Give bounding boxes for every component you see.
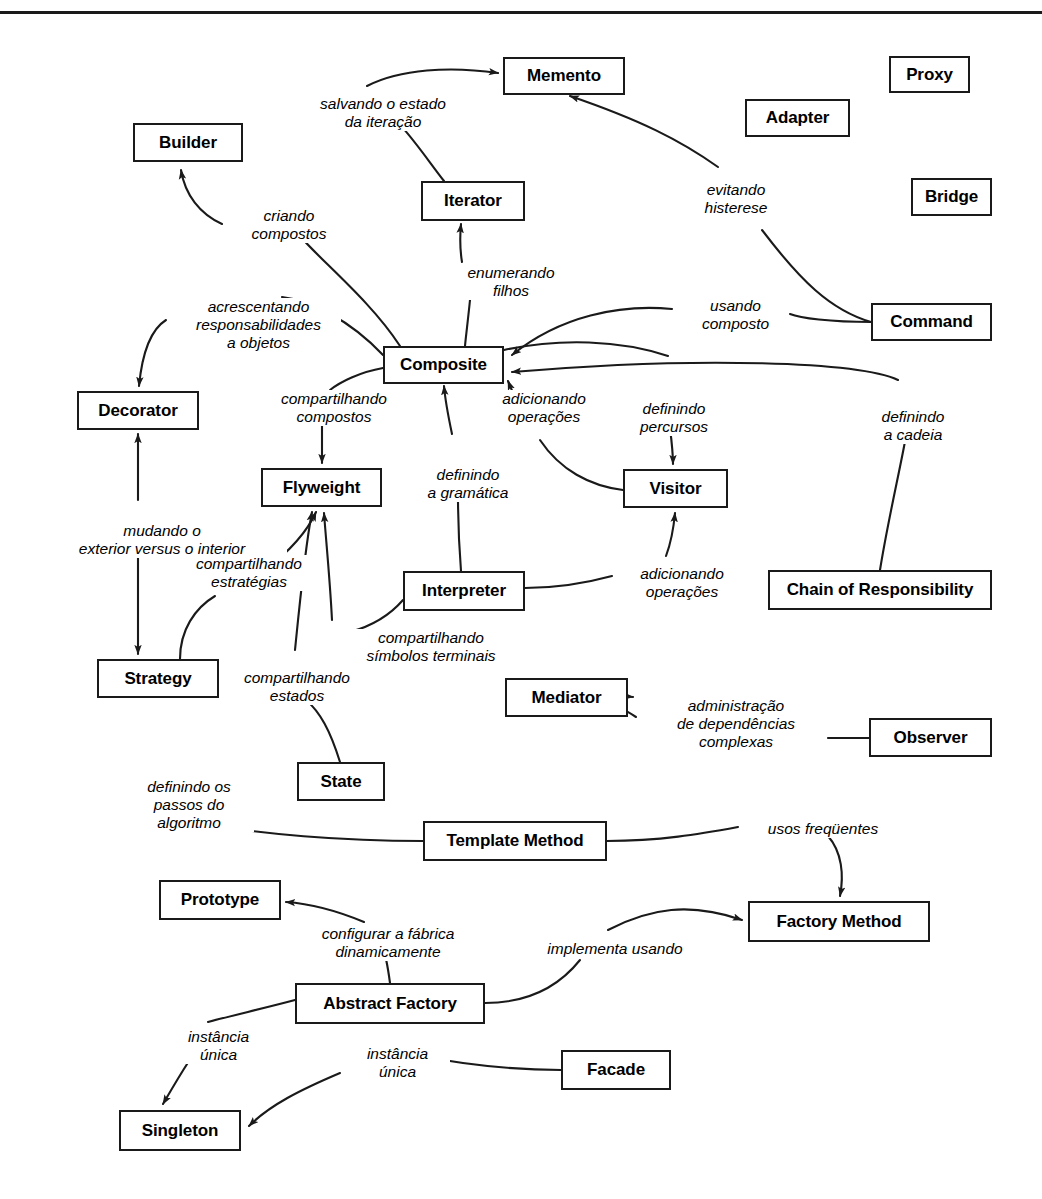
edge-interpreter-composite [444,386,452,434]
pattern-node-label: Bridge [925,187,978,207]
edge-label-line: a objetos [176,334,341,352]
edge-label-line: compartilhando [174,555,324,573]
edge-label-definindopassos: definindo ospassos doalgoritmo [124,778,254,832]
pattern-node-label: Builder [159,133,217,153]
edge-label-line: histerese [686,199,786,217]
edge-label-line: definindo [408,466,528,484]
edge-label-line: operações [483,408,605,426]
pattern-node-state[interactable]: State [297,762,385,801]
edge-composite-decorator [139,320,166,386]
pattern-node-decorator[interactable]: Decorator [77,391,199,430]
pattern-node-label: Strategy [124,669,191,689]
edge-label-line: única [166,1046,271,1064]
pattern-node-mediator[interactable]: Mediator [505,678,628,717]
pattern-node-command[interactable]: Command [871,303,992,341]
edge-label-line: dinamicamente [293,943,483,961]
pattern-node-visitor[interactable]: Visitor [623,469,728,508]
pattern-node-composite[interactable]: Composite [383,346,504,384]
pattern-node-label: Iterator [444,191,502,211]
edge-label-line: de dependências [646,715,826,733]
edge-label-line: compostos [259,408,409,426]
edge-label-line: definindo [620,400,728,418]
edge-label-instancia2: instânciaúnica [345,1045,450,1081]
pattern-node-label: Observer [894,728,968,748]
edge-label-line: definindo os [124,778,254,796]
pattern-node-builder[interactable]: Builder [133,123,243,162]
pattern-node-label: Template Method [446,831,583,851]
edge-label-line: filhos [452,282,570,300]
edge-iterator-memento-head [367,69,498,86]
edge-abstract-singleton [163,1061,189,1104]
edge-composite-builder [181,170,222,224]
edge-label-administracao: administraçãode dependênciascomplexas [646,697,826,751]
pattern-node-bridge[interactable]: Bridge [911,178,992,216]
edge-label-line: salvando o estado [297,95,469,113]
edge-label-line: compartilhando [259,390,409,408]
edge-label-line: definindo [863,408,963,426]
edge-label-configurar: configurar a fábricadinamicamente [293,925,483,961]
edge-label-line: evitando [686,181,786,199]
edge-abstract-factory [608,909,742,930]
edge-interpreter-flyweight-tail [350,600,403,632]
edge-label-line: adicionando [621,565,743,583]
pattern-node-label: Factory Method [776,912,901,932]
edge-interpreter-flyweight [324,513,332,620]
pattern-node-flyweight[interactable]: Flyweight [261,468,382,507]
pattern-node-observer[interactable]: Observer [869,718,992,757]
edge-abstract-factory-tail [485,960,580,1003]
pattern-node-label: State [320,772,361,792]
edge-label-acrescentando: acrescentandoresponsabilidadesa objetos [176,298,341,352]
pattern-node-prototype[interactable]: Prototype [159,880,281,920]
edge-label-line: criando [234,207,344,225]
edge-chain-composite-tail [880,436,906,570]
pattern-node-label: Adapter [766,108,830,128]
pattern-node-label: Memento [527,66,601,86]
pattern-node-label: Singleton [142,1121,219,1141]
edge-label-line: algoritmo [124,814,254,832]
pattern-node-strategy[interactable]: Strategy [97,659,219,698]
edge-label-compcompostos: compartilhandocompostos [259,390,409,426]
pattern-node-label: Mediator [531,688,601,708]
pattern-node-singleton[interactable]: Singleton [119,1110,241,1151]
edge-label-compsimb: compartilhandosímbolos terminais [336,629,526,665]
edge-state-flyweight-tail [306,700,340,762]
edge-label-line: operações [621,583,743,601]
pattern-node-memento[interactable]: Memento [503,57,625,95]
edge-composite-visitor-tail [504,342,668,356]
edge-label-line: compostos [234,225,344,243]
edge-label-line: símbolos terminais [336,647,526,665]
pattern-node-label: Flyweight [283,478,361,498]
edge-abstract-prototype [286,902,364,922]
edge-interpreter-composite-tail [458,496,461,571]
pattern-node-label: Abstract Factory [323,994,457,1014]
edge-label-line: implementa usando [530,940,700,958]
edge-chain-composite [512,363,898,380]
edge-label-line: percursos [620,418,728,436]
pattern-node-abstract[interactable]: Abstract Factory [295,983,485,1024]
pattern-node-adapter[interactable]: Adapter [745,99,850,137]
pattern-node-facade[interactable]: Facade [561,1050,671,1090]
edge-label-line: única [345,1063,450,1081]
edge-label-compestados: compartilhandoestados [222,669,372,705]
edge-label-line: passos do [124,796,254,814]
edge-template-factory-tail [607,827,738,841]
edge-abstract-singleton-tail [208,1000,295,1022]
pattern-node-template[interactable]: Template Method [423,821,607,861]
edge-label-line: compartilhando [222,669,372,687]
edge-strategy-flyweight-tail [180,596,215,659]
pattern-node-iterator[interactable]: Iterator [421,181,525,221]
pattern-node-label: Composite [400,355,487,375]
edge-label-mudando: mudando oexterior versus o interior [37,522,287,558]
edge-label-line: usos freqüentes [748,820,898,838]
edge-label-line: estratégias [174,573,324,591]
edge-label-line: administração [646,697,826,715]
edge-label-usando: usandocomposto [683,297,788,333]
pattern-node-proxy[interactable]: Proxy [889,56,970,93]
pattern-node-interpreter[interactable]: Interpreter [403,571,525,611]
pattern-node-chain[interactable]: Chain of Responsibility [768,570,992,610]
edge-label-line: compartilhando [336,629,526,647]
edge-label-instancia1: instânciaúnica [166,1028,271,1064]
edge-label-definindocad: definindoa cadeia [863,408,963,444]
pattern-node-factory[interactable]: Factory Method [748,901,930,942]
edge-label-line: estados [222,687,372,705]
